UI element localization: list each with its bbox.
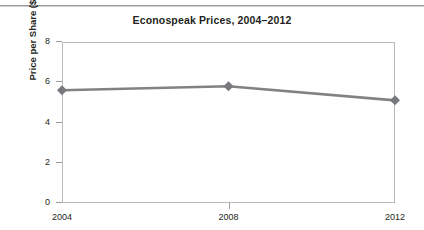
x-tick-label-2012: 2012 — [365, 212, 424, 222]
y-tick-label-4: 4 — [0, 117, 50, 128]
y-axis-title: Price per Share ($) — [27, 0, 38, 109]
figure-top-rule — [0, 5, 424, 7]
y-tick-label-8: 8 — [0, 36, 50, 47]
chart-figure: Econospeak Prices, 2004–2012 Price per S… — [0, 0, 424, 230]
y-tick-label-0: 0 — [0, 197, 50, 208]
plot-area — [62, 42, 395, 203]
y-tick-label-2: 2 — [0, 157, 50, 168]
x-tick-label-2004: 2004 — [32, 212, 92, 222]
chart-title: Econospeak Prices, 2004–2012 — [0, 14, 424, 26]
x-tick-mark-2008 — [229, 203, 230, 209]
y-tick-label-6: 6 — [0, 76, 50, 87]
x-tick-label-2008: 2008 — [199, 212, 259, 222]
